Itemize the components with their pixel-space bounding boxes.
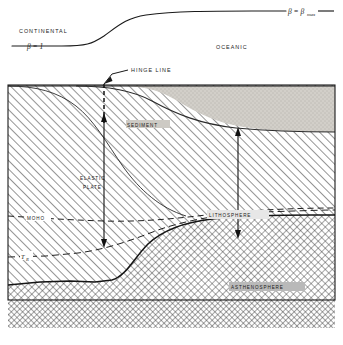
label-t-r: T — [21, 253, 25, 260]
label-beta-one-group: β = 1 — [26, 42, 43, 51]
label-elastic-plate-line2: PLATE — [83, 185, 102, 190]
label-asthenosphere: ASTHENOSPHERE — [231, 285, 284, 290]
label-beta-max-subscript: max — [307, 12, 316, 17]
section-body — [8, 85, 335, 332]
label-oceanic: OCEANIC — [216, 44, 248, 50]
deep-mantle-band — [8, 299, 335, 332]
cross-section-diagram: CONTINENTAL OCEANIC β = 1 β = β max HING… — [0, 0, 343, 345]
label-hinge-line: HINGE LINE — [131, 67, 172, 73]
label-beta-one: β = 1 — [26, 42, 43, 51]
label-sediment: SEDIMENT — [127, 123, 158, 128]
label-moho: MOHO — [27, 216, 45, 221]
label-continental: CONTINENTAL — [19, 28, 68, 34]
label-beta-max: β = β — [287, 7, 305, 16]
label-elastic-plate-line1: ELASTIC — [80, 176, 105, 181]
label-lithosphere: LITHOSPHERE — [209, 213, 251, 218]
label-t-r-subscript: R — [25, 257, 29, 262]
figure-root: CONTINENTAL OCEANIC β = 1 β = β max HING… — [0, 0, 343, 345]
